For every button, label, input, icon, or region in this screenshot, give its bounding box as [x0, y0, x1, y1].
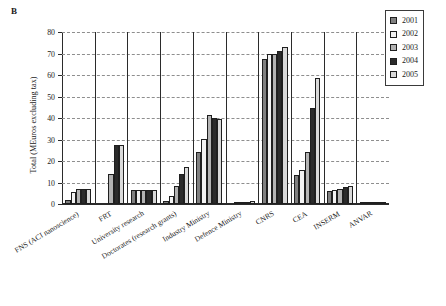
legend-label: 2001	[402, 17, 418, 25]
bar	[217, 119, 222, 204]
figure-panel-b: B Total (MEuros excluding tax) 010203040…	[0, 0, 446, 306]
bar-group-bars	[95, 32, 128, 204]
bar-group	[291, 32, 324, 204]
legend-label: 2003	[402, 44, 418, 52]
y-tick-label-30: 30	[47, 135, 55, 144]
group-separator	[258, 32, 259, 204]
legend-item: 2001	[390, 14, 418, 28]
y-tick-label-60: 60	[47, 71, 55, 80]
group-separator	[324, 32, 325, 204]
bar-group-bars	[258, 32, 291, 204]
x-axis-label: ANVAR	[347, 209, 374, 230]
y-tick-label-80: 80	[47, 28, 55, 37]
group-separator	[160, 32, 161, 204]
legend-item: 2005	[390, 68, 418, 82]
y-tick-label-40: 40	[47, 114, 55, 123]
legend-label: 2004	[402, 57, 418, 65]
y-tick-label-70: 70	[47, 49, 55, 58]
bar	[152, 190, 157, 204]
group-separator	[226, 32, 227, 204]
bar-group	[62, 32, 95, 204]
legend-label: 2005	[402, 71, 418, 79]
x-axis-label: FRT	[97, 209, 113, 224]
legend-swatch-icon	[390, 44, 397, 51]
bar	[315, 78, 320, 204]
x-axis-label: INSERM	[312, 209, 341, 231]
bar-group	[160, 32, 193, 204]
legend-label: 2002	[402, 30, 418, 38]
legend-swatch-icon	[390, 71, 397, 78]
legend-item: 2004	[390, 55, 418, 69]
bar-group	[324, 32, 357, 204]
bar-group	[258, 32, 291, 204]
bar-group-bars	[62, 32, 95, 204]
x-axis-label: CEA	[291, 209, 309, 225]
group-separator	[193, 32, 194, 204]
legend-swatch-icon	[390, 31, 397, 38]
bar	[282, 47, 287, 204]
y-tick-label-50: 50	[47, 92, 55, 101]
group-separator	[356, 32, 357, 204]
bar-group-bars	[324, 32, 357, 204]
bar	[348, 186, 353, 204]
legend-item: 2002	[390, 28, 418, 42]
bar-group	[95, 32, 128, 204]
legend-swatch-icon	[390, 58, 397, 65]
y-tick-label-10: 10	[47, 178, 55, 187]
group-separator	[291, 32, 292, 204]
bar	[250, 201, 255, 204]
bar-group	[193, 32, 226, 204]
bar-group-bars	[291, 32, 324, 204]
legend: 20012002200320042005	[385, 10, 424, 86]
bar-group	[226, 32, 259, 204]
y-tick-label-0: 0	[51, 200, 55, 209]
legend-item: 2003	[390, 41, 418, 55]
bar-group	[127, 32, 160, 204]
bar-group-bars	[193, 32, 226, 204]
group-separator	[127, 32, 128, 204]
plot-area: 01020304050607080	[62, 32, 389, 204]
y-axis-title: Total (MEuros excluding tax)	[29, 77, 38, 174]
panel-label: B	[11, 6, 17, 16]
bar-group-bars	[160, 32, 193, 204]
bar-group-bars	[127, 32, 160, 204]
y-tick-label-20: 20	[47, 157, 55, 166]
bar	[119, 145, 124, 204]
legend-swatch-icon	[390, 17, 397, 24]
bar-group-bars	[226, 32, 259, 204]
x-axis-label: CNRS	[254, 209, 276, 227]
bar	[184, 167, 189, 204]
x-axis-label: FNS (ACI nanoscience)	[13, 209, 80, 254]
y-axis-title-wrapper: Total (MEuros excluding tax)	[22, 50, 40, 200]
y-tick-mark-0	[58, 204, 62, 205]
gridline-0	[62, 204, 389, 205]
group-separator	[95, 32, 96, 204]
bar	[380, 202, 385, 204]
bar	[86, 189, 91, 204]
